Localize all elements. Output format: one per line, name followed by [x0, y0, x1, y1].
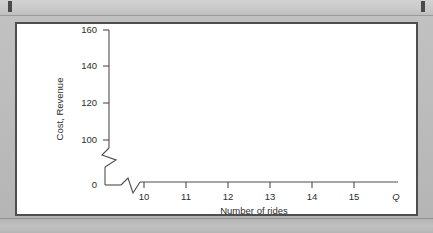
chart-svg: 160 140 120 100 0 Cost, Revenue: [17, 24, 420, 218]
top-right-corner-mark: [421, 1, 425, 12]
x-tick-label-14: 14: [307, 191, 318, 202]
y-tick-label-160: 160: [81, 24, 97, 35]
x-tick-label-10: 10: [139, 191, 150, 202]
x-axis-variable-label: Q: [392, 191, 400, 202]
x-tick-label-13: 13: [265, 191, 276, 202]
y-tick-label-100: 100: [81, 134, 97, 145]
x-axis-title: Number of rides: [220, 205, 288, 216]
screenshot-root: 160 140 120 100 0 Cost, Revenue: [0, 0, 433, 233]
y-tick-label-120: 120: [81, 97, 97, 108]
x-tick-label-15: 15: [349, 191, 360, 202]
bottom-edge-strip: [0, 218, 433, 233]
top-left-corner-mark: [8, 1, 12, 12]
figure-panel: 160 140 120 100 0 Cost, Revenue: [15, 22, 418, 216]
top-edge-strip: [0, 0, 433, 16]
y-tick-label-140: 140: [81, 60, 97, 71]
x-axis-break-mark: [121, 178, 140, 193]
y-tick-label-0: 0: [92, 179, 97, 190]
y-axis-break-mark: [102, 148, 116, 167]
x-tick-label-11: 11: [181, 191, 191, 202]
y-axis-title: Cost, Revenue: [54, 78, 65, 141]
plot-area: 160 140 120 100 0 Cost, Revenue: [17, 24, 420, 218]
x-tick-label-12: 12: [223, 191, 234, 202]
